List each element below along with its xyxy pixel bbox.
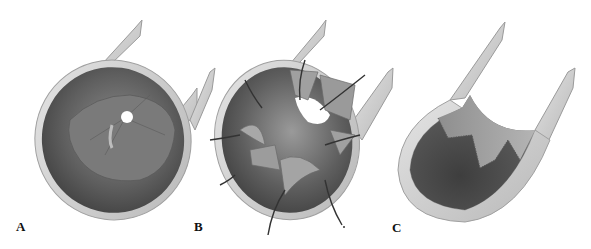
tube-membrane-illustration	[0, 0, 200, 249]
panel-label-a: A	[16, 219, 25, 235]
panel-a: A	[0, 0, 200, 249]
tube-zigzag-incision-illustration	[390, 0, 591, 249]
panel-b: B	[190, 0, 400, 249]
panel-label-c: C	[392, 220, 401, 236]
tube-sutured-flaps-illustration	[190, 0, 400, 249]
panel-c: C	[390, 0, 591, 249]
panel-label-b: B	[194, 219, 203, 235]
